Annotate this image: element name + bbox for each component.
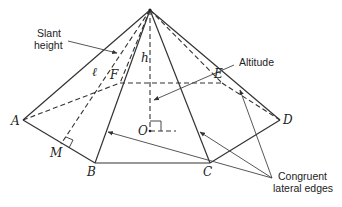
label-c: C bbox=[203, 165, 212, 179]
slant-height-pointer bbox=[68, 41, 117, 53]
slant-height-label-line1: Slant bbox=[37, 27, 61, 39]
center-point bbox=[149, 130, 152, 133]
label-b: B bbox=[86, 165, 96, 179]
slant-height-label-line2: height bbox=[34, 39, 63, 51]
label-f: F bbox=[109, 68, 119, 82]
right-angle-o bbox=[150, 121, 161, 131]
label-altitude-symbol: h bbox=[141, 51, 149, 65]
pyramid-diagram: A M B C D E F O ℓ h Slant height Altitud… bbox=[0, 0, 342, 207]
label-o: O bbox=[138, 124, 148, 138]
congruent-label-line1: Congruent bbox=[278, 170, 327, 182]
visible-lateral-edges bbox=[23, 10, 280, 163]
label-m: M bbox=[49, 146, 63, 160]
slant-height-line bbox=[61, 10, 150, 144]
label-d: D bbox=[282, 113, 293, 127]
hidden-lateral-edges bbox=[120, 10, 222, 83]
congruent-pointer-3 bbox=[240, 90, 272, 178]
apex-point bbox=[148, 8, 151, 11]
label-slant-symbol: ℓ bbox=[92, 65, 97, 79]
label-e: E bbox=[213, 67, 223, 81]
label-a: A bbox=[10, 114, 20, 128]
congruent-pointer-1 bbox=[108, 132, 272, 178]
hidden-base-edges bbox=[23, 83, 280, 120]
congruent-label-line2: lateral edges bbox=[273, 182, 333, 194]
altitude-label: Altitude bbox=[239, 56, 274, 68]
